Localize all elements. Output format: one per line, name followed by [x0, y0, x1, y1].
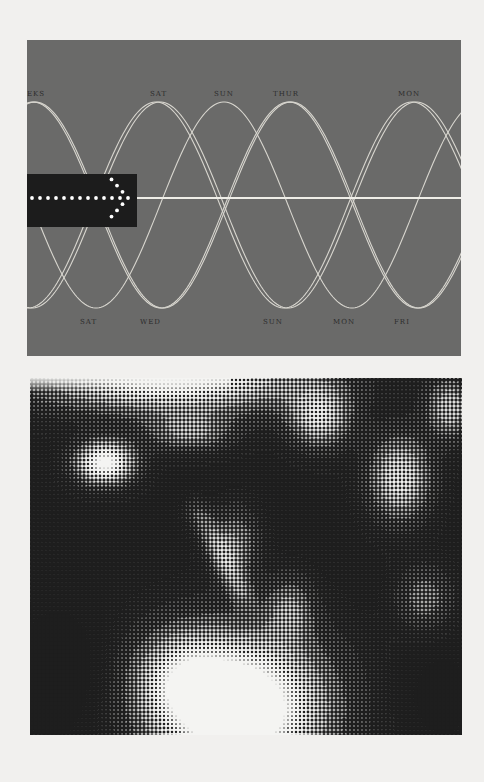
arrow-head-dot [115, 184, 119, 188]
wave-diagram-svg: EKS SAT SUN THUR MON SAT WED SUN MON FRI [27, 40, 461, 356]
halftone-photo [30, 378, 462, 735]
trough-label: SUN [263, 318, 283, 326]
arrow-shaft-dot [38, 196, 42, 200]
arrow-head-dot [121, 190, 125, 194]
arrow-shaft-dot [126, 196, 130, 200]
peak-label: THUR [273, 90, 299, 98]
peak-label: MON [398, 90, 420, 98]
arrow-shaft-dot [102, 196, 106, 200]
arrow-shaft-dot [30, 196, 34, 200]
arrow-shaft-dot [54, 196, 58, 200]
trough-label: WED [140, 318, 161, 326]
dotted-arrow-right-icon [27, 174, 137, 227]
peak-label: SUN [214, 90, 234, 98]
arrow-shaft-dot [78, 196, 82, 200]
arrow-head-dot [110, 215, 114, 219]
arrow-shaft-dot [46, 196, 50, 200]
peak-labels: EKS SAT SUN THUR MON [27, 90, 420, 98]
wave-diagram: EKS SAT SUN THUR MON SAT WED SUN MON FRI [27, 40, 461, 356]
arrow-box [27, 174, 137, 227]
arrow-shaft-dot [110, 196, 114, 200]
peak-label: EKS [27, 90, 45, 98]
trough-label: SAT [80, 318, 97, 326]
arrow-shaft-dot [118, 196, 122, 200]
trough-label: FRI [394, 318, 410, 326]
trough-labels: SAT WED SUN MON FRI [80, 318, 410, 326]
arrow-shaft-dot [94, 196, 98, 200]
peak-label: SAT [150, 90, 167, 98]
arrow-shaft-dot [62, 196, 66, 200]
halftone-photo-canvas [30, 378, 462, 735]
arrow-head-dot [121, 202, 125, 206]
arrow-head-dot [115, 209, 119, 213]
arrow-head-dot [110, 178, 114, 182]
trough-label: MON [333, 318, 355, 326]
arrow-shaft-dot [70, 196, 74, 200]
arrow-shaft-dot [86, 196, 90, 200]
